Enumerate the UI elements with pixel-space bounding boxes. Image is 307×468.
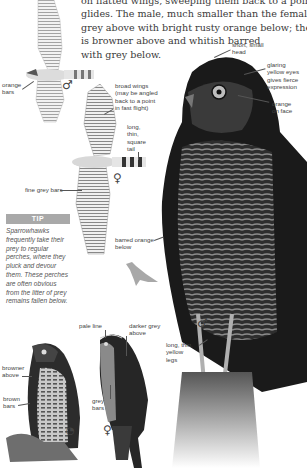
sparrowhawk-silhouette-icon xyxy=(124,260,160,288)
label-face: orange on face xyxy=(272,100,292,115)
label-eyes: glaring yellow eyes gives fierce express… xyxy=(267,61,299,91)
leader-line xyxy=(110,385,111,399)
tip-heading: TIP xyxy=(6,214,70,224)
label-legs: long, thin, yellow legs xyxy=(166,341,193,363)
label-brown-bars: brown bars xyxy=(3,395,20,410)
male-symbol: ♂ xyxy=(197,316,208,330)
label-orange-bars: orange bars xyxy=(2,81,21,96)
leader-line xyxy=(126,336,127,356)
intro-line: grey above with bright rusty orange belo… xyxy=(81,21,307,34)
label-head: short, small head xyxy=(232,41,264,56)
leader-line xyxy=(138,152,139,160)
label-breast: barred orange below xyxy=(115,236,154,251)
tip-text: Sparrowhawks frequently take their prey … xyxy=(6,227,70,306)
tip-box: TIP Sparrowhawks frequently take their p… xyxy=(6,214,70,306)
female-symbol: ♀ xyxy=(103,423,112,437)
intro-line: on flatted wings, sweeping them back to … xyxy=(81,0,307,7)
intro-line: is browner above and whitish barred xyxy=(81,34,307,47)
juvenile-symbol: ◔ xyxy=(66,425,75,436)
female-symbol: ♀ xyxy=(113,171,122,185)
leader-line xyxy=(22,376,32,377)
label-pale-line: pale line xyxy=(79,322,102,329)
intro-line: glides. The male, much smaller than the … xyxy=(81,7,307,20)
label-darker-grey-above: darker grey above xyxy=(129,322,160,337)
leader-line xyxy=(60,190,82,191)
leader-line xyxy=(105,330,106,338)
label-tail: long, thin, square tail xyxy=(127,123,146,153)
label-browner-above: browner above xyxy=(2,364,24,379)
label-grey-bars: grey bars xyxy=(92,397,104,412)
label-fine-grey-bars: fine grey bars xyxy=(25,186,63,193)
